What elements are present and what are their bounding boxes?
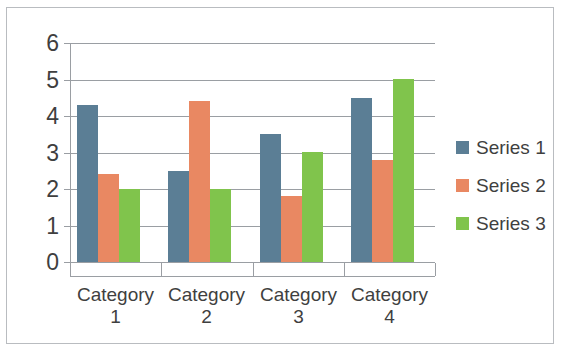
legend-label: Series 2: [476, 172, 546, 199]
category-label-2: Category2: [161, 284, 252, 328]
bar-2-cat-3[interactable]: [281, 196, 302, 262]
legend-label: Series 1: [476, 134, 546, 161]
y-axis-tick-label: 4: [19, 105, 59, 128]
legend-swatch-icon: [456, 217, 469, 230]
category-axis: [70, 263, 435, 277]
bar-3-cat-2[interactable]: [210, 189, 231, 262]
chart-container: 0123456 Category1Category2Category3Categ…: [6, 7, 554, 344]
legend-label: Series 3: [476, 210, 546, 237]
y-axis-tick-label: 2: [19, 178, 59, 201]
category-label-line1: Category: [168, 284, 245, 305]
y-axis-tick-label: 3: [19, 142, 59, 165]
legend-swatch-icon: [456, 141, 469, 154]
bar-3-cat-4[interactable]: [393, 79, 414, 262]
category-label-line2: 1: [70, 306, 161, 328]
legend-item-1[interactable]: Series 1: [456, 134, 556, 172]
category-label-line2: 4: [344, 306, 435, 328]
y-axis-tick-label: 1: [19, 215, 59, 238]
category-tick: [435, 263, 436, 276]
legend-swatch-icon: [456, 179, 469, 192]
category-label-line1: Category: [260, 284, 337, 305]
y-axis-tick-label: 5: [19, 69, 59, 92]
legend-item-2[interactable]: Series 2: [456, 172, 556, 210]
bar-2-cat-1[interactable]: [98, 174, 119, 262]
category-label-3: Category3: [253, 284, 344, 328]
y-axis-tick-label: 6: [19, 32, 59, 55]
bar-1-cat-1[interactable]: [77, 105, 98, 262]
bar-1-cat-4[interactable]: [351, 98, 372, 262]
category-tick: [161, 263, 162, 276]
category-label-line1: Category: [77, 284, 154, 305]
category-label-1: Category1: [70, 284, 161, 328]
chart-legend: Series 1Series 2Series 3: [456, 134, 556, 248]
bar-1-cat-2[interactable]: [168, 171, 189, 262]
bar-3-cat-1[interactable]: [119, 189, 140, 262]
bar-2-cat-4[interactable]: [372, 160, 393, 262]
category-label-line2: 3: [253, 306, 344, 328]
category-label-line1: Category: [351, 284, 428, 305]
bar-2-cat-2[interactable]: [189, 101, 210, 262]
bar-3-cat-3[interactable]: [302, 152, 323, 262]
category-tick: [253, 263, 254, 276]
bar-1-cat-3[interactable]: [260, 134, 281, 262]
category-label-4: Category4: [344, 284, 435, 328]
category-tick: [70, 263, 71, 276]
y-axis-labels: 0123456: [13, 8, 59, 343]
category-axis-line: [70, 276, 435, 277]
plot-area: [70, 43, 435, 262]
y-axis-tick-label: 0: [19, 251, 59, 274]
category-tick: [344, 263, 345, 276]
category-label-line2: 2: [161, 306, 252, 328]
legend-item-3[interactable]: Series 3: [456, 210, 556, 248]
